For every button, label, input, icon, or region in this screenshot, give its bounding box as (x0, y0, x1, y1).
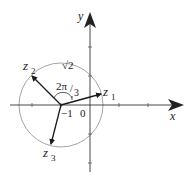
svg-text:1: 1 (111, 92, 116, 102)
svg-text:z: z (22, 58, 28, 73)
x-axis-label: x (169, 109, 176, 123)
complex-plane-diagram: y x 0 −1 √2 2π / 3 z 1 z 2 z 3 (0, 0, 195, 176)
label-z1: z 1 (102, 84, 116, 102)
svg-text:z: z (42, 145, 48, 160)
vector-z3 (51, 105, 61, 144)
svg-text:3: 3 (51, 153, 56, 163)
angle-label: 2π / 3 (56, 80, 79, 98)
label-z2: z 2 (22, 58, 36, 76)
svg-text:z: z (102, 84, 108, 99)
svg-text:3: 3 (74, 87, 79, 98)
origin-label: 0 (80, 107, 86, 119)
center-label: −1 (61, 107, 73, 119)
vector-z1 (61, 94, 101, 105)
svg-text:2: 2 (31, 66, 36, 76)
svg-text:2π: 2π (56, 80, 68, 92)
y-axis-label: y (77, 9, 84, 23)
label-z3: z 3 (42, 145, 56, 163)
radius-label: √2 (62, 59, 74, 71)
svg-text:/: / (70, 83, 73, 94)
